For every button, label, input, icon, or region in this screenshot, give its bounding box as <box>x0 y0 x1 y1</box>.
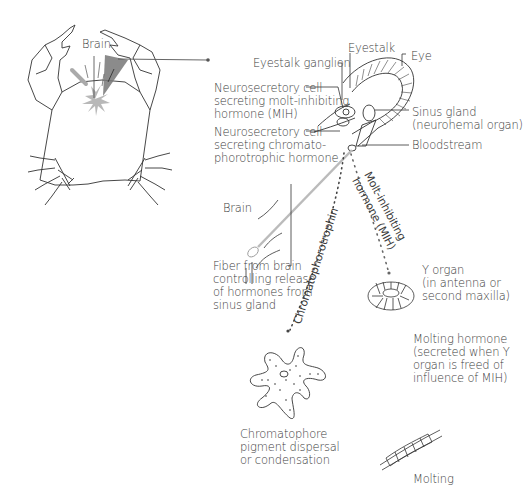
molting-illustration <box>380 430 442 470</box>
eyestalk-label: Eyestalk <box>348 42 395 55</box>
mih-cell-label: Neurosecretory cell secreting molt-inhib… <box>214 82 349 121</box>
molting-hormone-label: Molting hormone (secreted when Y organ i… <box>413 333 510 385</box>
pointer-line <box>118 59 207 60</box>
y-organ-illustration <box>368 282 414 310</box>
eye-label: Eye <box>411 50 432 63</box>
y-organ-label: Y organ (in antenna or second maxilla) <box>422 264 510 303</box>
crab-brain-label: Brain <box>82 38 111 51</box>
bloodstream-label: Bloodstream <box>412 139 482 152</box>
molting-label: Molting <box>413 473 454 486</box>
eyestalk-ganglion-label: Eyestalk ganglion <box>253 57 351 70</box>
chromatophore-label: Chromatophore pigment dispersal or conde… <box>240 428 340 467</box>
chromato-cell-label: Neurosecretory cell secreting chromato- … <box>214 126 338 165</box>
crab-illustration <box>28 25 172 205</box>
sinus-gland-label: Sinus gland (neurohemal organ) <box>412 106 523 132</box>
chromatophore-illustration <box>250 348 325 419</box>
brain-label: Brain <box>223 202 252 215</box>
